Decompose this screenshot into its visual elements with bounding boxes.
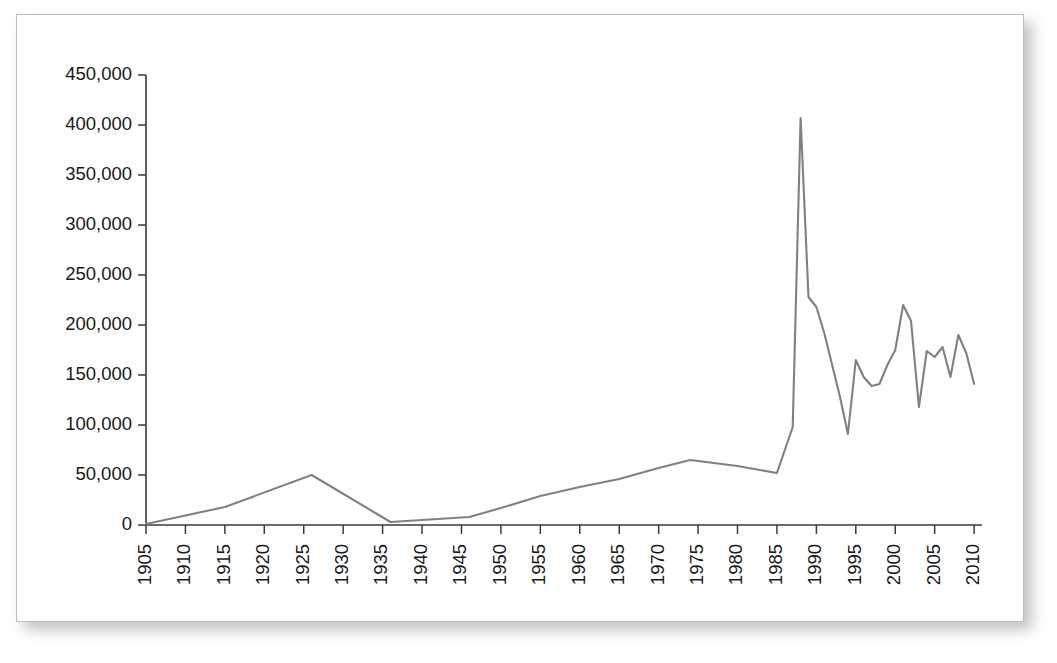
y-axis-tick-label: 100,000 [65, 413, 132, 434]
series-line-series-1 [146, 118, 974, 524]
x-axis-tick-label: 2005 [923, 544, 944, 585]
x-axis-tick-label: 1990 [804, 544, 825, 585]
x-axis-tick-label: 1995 [844, 544, 865, 585]
x-axis-tick-label: 1905 [134, 544, 155, 585]
x-axis-tick-label: 1935 [370, 544, 391, 585]
chart-page: 050,000100,000150,000200,000250,000300,0… [0, 0, 1057, 663]
x-axis-tick-label: 1940 [410, 544, 431, 585]
y-axis-tick-label: 400,000 [65, 113, 132, 134]
x-axis-tick-label: 1950 [489, 544, 510, 585]
x-axis-tick-label: 1965 [607, 544, 628, 585]
y-axis-tick-label: 200,000 [65, 313, 132, 334]
x-axis-tick-label: 1960 [568, 544, 589, 585]
x-axis-tick-label: 1925 [292, 544, 313, 585]
x-axis-tick-label: 1955 [528, 544, 549, 585]
x-axis-tick-label: 1945 [449, 544, 470, 585]
y-axis-tick-label: 150,000 [65, 363, 132, 384]
y-axis: 050,000100,000150,000200,000250,000300,0… [65, 63, 146, 534]
x-axis: 1905191019151920192519301935194019451950… [134, 525, 983, 585]
x-axis-tick-label: 2000 [883, 544, 904, 585]
x-axis-tick-label: 1915 [213, 544, 234, 585]
x-axis-tick-label: 1985 [765, 544, 786, 585]
y-axis-tick-label: 250,000 [65, 263, 132, 284]
x-axis-tick-label: 1930 [331, 544, 352, 585]
x-axis-tick-label: 1980 [725, 544, 746, 585]
y-axis-tick-label: 0 [122, 513, 132, 534]
y-axis-tick-label: 450,000 [65, 63, 132, 84]
x-axis-tick-label: 1910 [173, 544, 194, 585]
data-series [146, 118, 974, 524]
y-axis-tick-label: 350,000 [65, 163, 132, 184]
line-chart: 050,000100,000150,000200,000250,000300,0… [17, 15, 1025, 623]
chart-figure-frame: 050,000100,000150,000200,000250,000300,0… [16, 14, 1024, 622]
x-axis-tick-label: 2010 [962, 544, 983, 585]
y-axis-tick-label: 50,000 [75, 463, 132, 484]
y-axis-tick-label: 300,000 [65, 213, 132, 234]
x-axis-tick-label: 1970 [647, 544, 668, 585]
x-axis-tick-label: 1975 [686, 544, 707, 585]
x-axis-tick-label: 1920 [252, 544, 273, 585]
